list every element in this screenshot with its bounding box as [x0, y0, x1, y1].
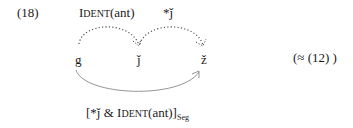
seg-subscript: Seg	[177, 113, 189, 122]
dotted-arc-g-to-j	[79, 27, 139, 45]
segment-z: ž	[201, 53, 207, 66]
conjoined-ident-arg: (ant)]	[148, 105, 177, 120]
conjoined-open: [*ǰ &	[86, 105, 117, 120]
segment-j: ǰ	[137, 53, 141, 66]
dotted-arrowhead-1-icon	[133, 39, 141, 46]
solid-arrowhead-icon	[192, 71, 199, 78]
conjoined-ident-rest: dent	[121, 108, 148, 119]
dotted-arc-j-to-z	[140, 27, 203, 45]
segment-g: g	[75, 53, 82, 66]
conjoined-constraint-label: [*ǰ & Ident(ant)]Seg	[86, 106, 189, 119]
example-reference: (≈ (12) )	[293, 51, 337, 64]
solid-arc-g-to-z	[76, 70, 199, 91]
